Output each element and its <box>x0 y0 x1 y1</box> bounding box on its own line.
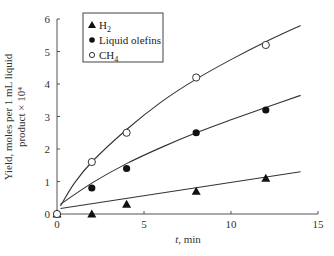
data-point <box>53 210 60 217</box>
data-point <box>262 41 269 48</box>
data-points <box>53 41 271 217</box>
data-point <box>193 74 200 81</box>
data-point <box>122 200 131 208</box>
filled-circle-marker-icon <box>89 37 95 43</box>
y-axis-label-line2: product × 10⁴ <box>15 87 27 147</box>
x-tick-label: 15 <box>313 218 325 230</box>
y-tick-label: 1 <box>45 176 51 188</box>
y-tick-label: 4 <box>45 78 51 90</box>
x-tick-label: 10 <box>226 218 238 230</box>
open-circle-marker-icon <box>89 52 94 57</box>
chart-canvas: 0510150123456 H2Liquid olefinsCH4 t, min… <box>0 0 334 256</box>
y-tick-label: 2 <box>45 143 51 155</box>
data-point <box>88 158 95 165</box>
x-axis-label: t, min <box>175 233 201 245</box>
x-tick-label: 5 <box>141 218 147 230</box>
y-tick-label: 3 <box>45 111 51 123</box>
data-point <box>123 165 130 172</box>
y-tick-label: 6 <box>45 13 51 25</box>
data-point <box>123 129 130 136</box>
y-axis-label-line1: Yield, moles per 1 mL liquid <box>2 53 14 180</box>
y-tick-label: 5 <box>45 46 51 58</box>
legend: H2Liquid olefinsCH4 <box>83 13 163 64</box>
x-tick-label: 0 <box>54 218 60 230</box>
legend-label: Liquid olefins <box>99 34 161 46</box>
data-point <box>193 129 200 136</box>
data-point <box>262 106 269 113</box>
y-axis-label: Yield, moles per 1 mL liquid product × 1… <box>2 53 27 180</box>
y-tick-label: 0 <box>45 208 51 220</box>
data-point <box>88 184 95 191</box>
